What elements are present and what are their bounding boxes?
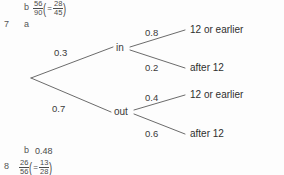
probability-in-after: 0.2 xyxy=(145,62,158,73)
open-paren-icon: ( xyxy=(29,159,32,175)
fraction-denominator: 28 xyxy=(39,167,49,175)
branch-out-earlier xyxy=(134,95,185,110)
fraction-numerator: 26 xyxy=(19,159,29,167)
leaf-in-earlier: 12 or earlier xyxy=(190,24,243,35)
close-paren-icon: ) xyxy=(49,159,52,175)
branch-root-in xyxy=(31,47,113,78)
branch-out-after xyxy=(134,114,185,134)
equals-sign: = xyxy=(33,163,38,172)
answers-page: b 56 90 ( = 28 45 ) 7 a 0.3 0.7 xyxy=(0,0,284,175)
fraction-denominator: 56 xyxy=(19,167,29,175)
leaf-in-after: after 12 xyxy=(190,62,224,73)
fraction-numerator: 13 xyxy=(39,159,49,167)
answer-value-0-48: 0.48 xyxy=(35,146,53,156)
fraction-26-56-group: 26 56 ( = 13 28 ) xyxy=(19,159,52,175)
node-in: in xyxy=(116,42,124,53)
fraction-26-56: 26 56 xyxy=(19,159,29,175)
branch-root-out xyxy=(31,78,111,112)
probability-out-after: 0.6 xyxy=(145,128,158,139)
probability-in-earlier: 0.8 xyxy=(145,27,158,38)
probability-out-earlier: 0.4 xyxy=(145,92,158,103)
fraction-13-28: 13 28 xyxy=(39,159,49,175)
node-out: out xyxy=(114,106,128,117)
leaf-out-earlier: 12 or earlier xyxy=(190,89,243,100)
item-number-8: 8 xyxy=(4,162,9,171)
probability-out: 0.7 xyxy=(52,103,65,114)
part-letter-7b: b xyxy=(24,146,29,155)
probability-in: 0.3 xyxy=(54,47,67,58)
leaf-out-after: after 12 xyxy=(190,128,224,139)
